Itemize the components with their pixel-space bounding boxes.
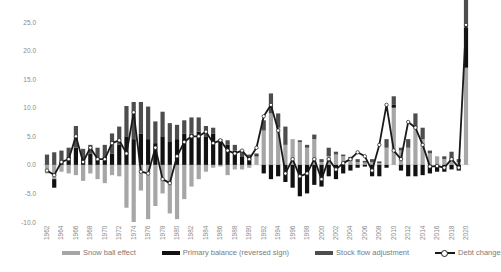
line-marker-swatch-icon [435,249,455,257]
debt-change-marker [392,149,395,152]
bar-segment [442,156,446,159]
legend-label-snowball: Snow ball effect [83,248,136,257]
chart-legend: Snow ball effect Primary balance (revers… [62,248,501,257]
bar-segment [319,162,323,165]
bar-segment [363,163,367,165]
snowball-swatch-icon [62,251,80,255]
debt-change-marker [139,170,142,173]
bar-segment [110,153,114,164]
bar-segment [305,145,309,148]
debt-change-marker [190,135,193,138]
y-tick-label: -5.0 [25,190,37,197]
debt-change-marker [60,160,63,163]
debt-change-marker [118,139,121,142]
debt-change-marker [103,157,106,160]
x-tick-label: 2016 [433,225,440,240]
bar-segment [153,165,157,206]
x-tick-label: 1974 [130,225,137,240]
debt-change-marker [435,164,438,167]
y-tick-label: 5.0 [27,133,36,140]
x-tick-label: 1970 [101,225,108,240]
bar-segment [363,165,367,167]
debt-change-marker [110,141,113,144]
bar-segment [327,165,331,176]
x-tick-label: 1986 [216,225,223,240]
x-tick-label: 1992 [260,225,267,240]
debt-change-marker [276,129,279,132]
bar-segment [218,165,222,167]
bar-segment [334,155,338,165]
debt-change-marker [341,161,344,164]
bar-segment [117,145,121,165]
debt-change-marker [464,23,467,26]
debt-change-marker [132,111,135,114]
bar-segment [110,165,114,175]
bar-segment [211,165,215,168]
bar-segment [348,161,352,165]
bar-segment [132,165,136,222]
debt-change-marker [219,139,222,142]
bar-segment [247,165,251,168]
bar-segment [146,107,150,140]
x-tick-label: 1990 [245,225,252,240]
debt-change-marker [74,135,77,138]
bar-segment [406,139,410,148]
bar-segment [168,123,172,142]
bar-segment [81,165,85,181]
bar-segment [283,127,287,145]
x-tick-label: 1978 [159,225,166,240]
x-tick-label: 1998 [303,225,310,240]
debt-change-marker [269,103,272,106]
bar-segment [464,68,468,165]
bar-segment [233,165,237,170]
debt-change-marker [370,169,373,172]
bar-segment [218,142,222,165]
y-tick-label: 25.0 [23,19,36,26]
debt-change-marker [284,172,287,175]
debt-change-marker [226,149,229,152]
bar-segment [52,152,56,165]
legend-item-primary-balance: Primary balance (reversed sign) [162,248,289,257]
stock-flow-swatch-icon [315,251,333,255]
bar-segment [319,159,323,162]
legend-item-snowball: Snow ball effect [62,248,136,257]
bar-segment [276,165,280,176]
bar-segment [399,165,403,171]
debt-change-marker [428,165,431,168]
x-tick-label: 1980 [173,225,180,240]
debt-change-marker [53,173,56,176]
bar-segment [182,120,186,133]
debt-change-marker [450,157,453,160]
bar-segment [384,148,388,165]
bar-segment [204,165,208,172]
bar-segment [384,165,388,168]
x-tick-label: 1994 [274,225,281,240]
bar-segment [197,165,201,179]
bar-segment [392,96,396,105]
debt-change-marker [378,143,381,146]
debt-change-marker [125,152,128,155]
debt-change-marker [305,172,308,175]
debt-change-marker [233,152,236,155]
bar-segment [175,165,179,219]
bar-segment [211,128,215,134]
bar-segment [392,105,396,108]
legend-label-stock-flow: Stock flow adjustment [336,248,409,257]
bar-segment [269,165,273,179]
bar-segment [291,165,295,188]
bar-segment [233,145,237,151]
x-tick-label: 2020 [462,225,469,240]
x-tick-label: 1968 [86,225,93,240]
debt-change-marker [421,143,424,146]
bar-segment [298,165,302,196]
bar-segment [146,139,150,165]
bar-segment [124,165,128,208]
bar-segment [348,165,352,171]
y-tick-label: -10.0 [21,219,36,226]
debt-change-marker [443,166,446,169]
bar-segment [88,153,92,164]
debt-change-marker [183,140,186,143]
bar-segment [160,136,164,165]
debt-change-marker [313,157,316,160]
